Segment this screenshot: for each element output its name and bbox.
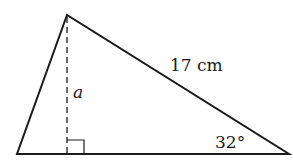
triangle (17, 15, 289, 154)
triangle-diagram: 17 cm a 32° (0, 0, 293, 166)
side-length-label: 17 cm (170, 55, 223, 75)
altitude-label: a (73, 82, 83, 102)
right-angle-marker (67, 140, 84, 154)
angle-label: 32° (215, 132, 245, 152)
